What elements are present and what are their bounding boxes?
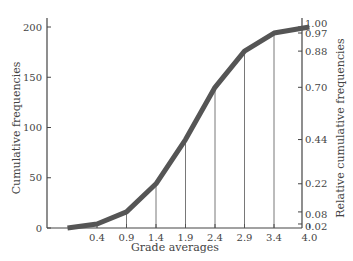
y2-tick-label: 0.44 <box>305 134 327 145</box>
y2-axis-title: Relative cumulative frequencies <box>334 38 347 218</box>
y2-tick-label: 0.08 <box>305 209 327 220</box>
y-tick-label: 200 <box>23 22 42 33</box>
x-tick-label: 3.4 <box>266 232 282 243</box>
y2-tick-label: 0.70 <box>305 82 327 93</box>
y2-tick-label: 0.02 <box>305 221 327 232</box>
y-tick-label: 0 <box>36 223 42 234</box>
y-tick-label: 50 <box>29 172 42 183</box>
y2-tick-label: 0.88 <box>305 46 327 57</box>
x-axis-title: Grade averages <box>131 241 219 254</box>
plot-area: 0501001502000.020.080.220.440.700.880.97… <box>10 18 347 255</box>
y-tick-label: 100 <box>23 122 42 133</box>
cumulative-frequency-chart: 0501001502000.020.080.220.440.700.880.97… <box>0 0 353 261</box>
x-tick-label: 2.9 <box>237 232 253 243</box>
x-tick-label: 0.4 <box>89 232 105 243</box>
y2-tick-label: 0.22 <box>305 178 327 189</box>
x-tick-label: 4.0 <box>301 232 317 243</box>
y-axis-title: Cumulative frequencies <box>10 61 23 194</box>
cumulative-frequency-line <box>68 27 310 228</box>
y-tick-label: 150 <box>23 72 42 83</box>
